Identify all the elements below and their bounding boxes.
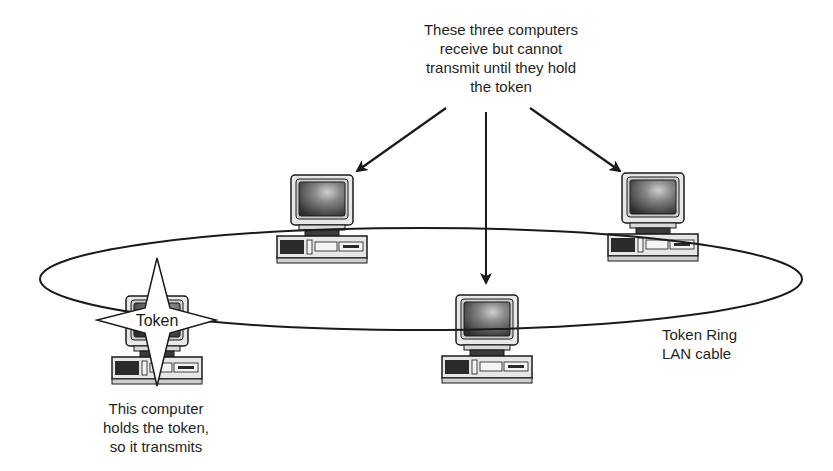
holder-note: This computer holds the token, so it tra… [86,399,226,456]
holder-note-line: so it transmits [86,437,226,456]
receivers-note-line: transmit until they hold [383,58,619,77]
arrow-to-top-left [357,108,446,171]
holder-note-line: holds the token, [86,418,226,437]
computer-icon [608,173,698,261]
computer-top-left [277,175,367,263]
computer-icon [277,175,367,263]
cable-note-line: LAN cable [662,344,758,363]
receivers-note: These three computers receive but cannot… [383,20,619,96]
receivers-note-line: receive but cannot [383,39,619,58]
cable-note: Token Ring LAN cable [662,325,758,363]
computer-icon [442,295,532,383]
receivers-note-line: the token [383,77,619,96]
arrow-to-top-right [530,108,620,171]
cable-note-line: Token Ring [662,325,758,344]
receivers-note-line: These three computers [383,20,619,39]
token-label: Token [136,312,179,329]
computer-bottom-center [442,295,532,383]
holder-note-line: This computer [86,399,226,418]
computer-top-right [608,173,698,261]
